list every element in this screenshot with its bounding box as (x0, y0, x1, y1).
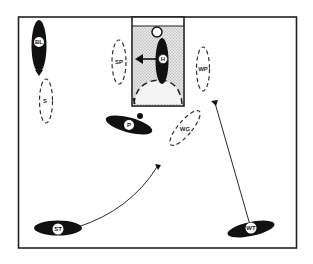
ball-icon (137, 113, 143, 119)
label-wt: WT (246, 225, 256, 231)
label-wp: WP (198, 66, 208, 72)
label-s: S (43, 98, 47, 104)
player-wt[interactable]: WT (226, 217, 276, 241)
player-sp[interactable]: SP (112, 40, 126, 84)
label-wg: WG (180, 126, 191, 132)
field-diagram: H BL S SP WP P WG (0, 0, 313, 264)
player-st[interactable]: ST (34, 221, 82, 236)
label-sp: SP (115, 59, 123, 65)
player-p[interactable]: P (104, 112, 154, 139)
path-wt (211, 100, 250, 225)
label-st: ST (54, 226, 62, 232)
player-wg[interactable]: WG (165, 107, 204, 150)
player-s[interactable]: S (40, 79, 53, 123)
player-bl[interactable]: BL (32, 20, 47, 76)
label-h: H (161, 56, 165, 62)
label-bl: BL (35, 39, 43, 45)
label-p: P (127, 122, 131, 128)
player-wp[interactable]: WP (197, 47, 210, 91)
ball-icon (152, 27, 162, 37)
path-st (78, 164, 161, 227)
